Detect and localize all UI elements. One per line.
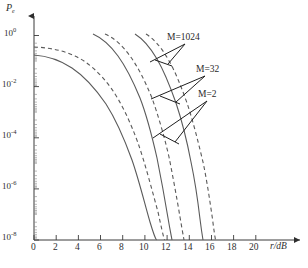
x-tick-label-6: 12 bbox=[161, 242, 171, 252]
figure-container: Pe 100 10-2 10-4 10-6 10-8 0 2 4 6 8 10 … bbox=[0, 0, 308, 268]
x-axis-title: r/dB bbox=[270, 241, 287, 251]
x-tick-label-4: 8 bbox=[119, 242, 124, 252]
leader-lines-m2 bbox=[153, 101, 207, 144]
x-tick-label-8: 16 bbox=[205, 242, 215, 252]
x-tick-label-5: 10 bbox=[139, 242, 149, 252]
curve-m2-solid bbox=[34, 55, 157, 240]
y-tick-label-4: 10-8 bbox=[2, 232, 16, 242]
x-tick-label-9: 18 bbox=[227, 242, 237, 252]
x-tick-label-7: 14 bbox=[183, 242, 193, 252]
y-axis-major-ticks bbox=[34, 36, 39, 241]
series-annotation-m32: M=32 bbox=[196, 64, 219, 74]
x-tick-label-10: 20 bbox=[249, 242, 259, 252]
y-tick-label-0: 100 bbox=[4, 28, 16, 38]
y-tick-label-2: 10-4 bbox=[2, 130, 16, 140]
y-axis-title: Pe bbox=[6, 2, 15, 13]
curve-m32-dashed bbox=[105, 34, 184, 240]
y-tick-label-3: 10-6 bbox=[2, 181, 16, 191]
curve-m2-dashed bbox=[34, 47, 165, 240]
x-tick-label-2: 4 bbox=[75, 242, 80, 252]
y-tick-label-1: 10-2 bbox=[2, 79, 16, 89]
leader-lines-m1024 bbox=[150, 44, 185, 66]
x-axis-ticks bbox=[34, 235, 256, 240]
series-annotation-m2: M=2 bbox=[198, 89, 217, 99]
x-tick-label-3: 6 bbox=[97, 242, 102, 252]
chart-canvas bbox=[0, 0, 308, 268]
series-annotation-m1024: M=1024 bbox=[167, 32, 200, 42]
x-tick-label-1: 2 bbox=[53, 242, 58, 252]
x-tick-label-0: 0 bbox=[31, 242, 36, 252]
